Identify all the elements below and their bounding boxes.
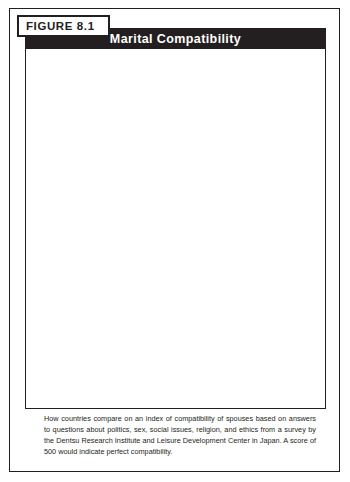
figure-container: FIGURE 8.1 Marital Compatibility How cou… bbox=[9, 8, 340, 472]
chart-title: Marital Compatibility bbox=[110, 32, 241, 46]
figure-number-label: FIGURE 8.1 bbox=[26, 20, 95, 32]
bars-container bbox=[26, 49, 325, 408]
plot-area bbox=[25, 49, 326, 409]
figure-caption: How countries compare on an index of com… bbox=[44, 413, 316, 457]
figure-number-tag: FIGURE 8.1 bbox=[17, 15, 110, 37]
